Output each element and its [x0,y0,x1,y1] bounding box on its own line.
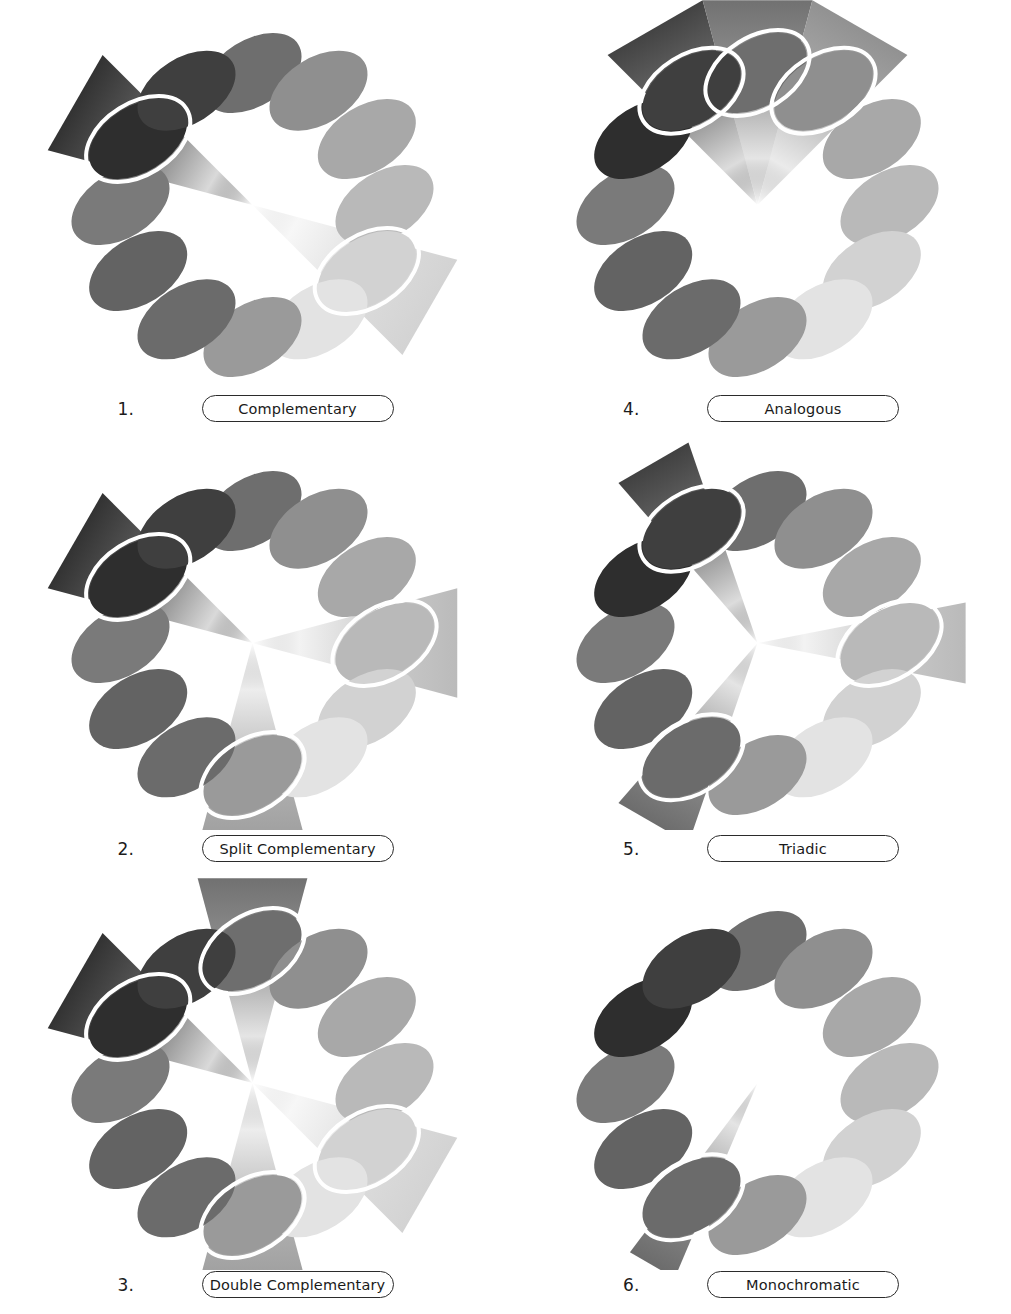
panel-number-monochromatic: 6. [617,1275,707,1295]
panel-caption: 3. Double Complementary [0,1271,505,1298]
color-wheel-analogous [505,0,1011,438]
color-wheel-double-complementary [0,878,505,1314]
panel-caption: 4. Analogous [505,395,1011,422]
color-wheel-svg [0,0,505,392]
scheme-label-text-analogous: Analogous [764,401,841,417]
panel-grid: 1. Complementary 4. Analogous 2. Split C… [0,0,1011,1314]
scheme-panel-complementary: 1. Complementary [0,0,505,438]
color-wheel-svg [506,438,1011,830]
color-wheel-svg [0,438,505,830]
color-wheel-svg [506,878,1011,1270]
panel-number-double-complementary: 3. [112,1275,202,1295]
panel-number-analogous: 4. [617,399,707,419]
scheme-label-pill-triadic[interactable]: Triadic [707,835,899,862]
scheme-label-pill-double-complementary[interactable]: Double Complementary [202,1271,394,1298]
color-wheel-monochromatic [505,878,1011,1314]
panel-caption: 6. Monochromatic [505,1271,1011,1298]
color-wheel-svg [506,0,1011,392]
panel-caption: 1. Complementary [0,395,505,422]
scheme-panel-split-complementary: 2. Split Complementary [0,438,505,878]
panel-number-triadic: 5. [617,839,707,859]
color-wheel-triadic [505,438,1011,878]
scheme-panel-monochromatic: 6. Monochromatic [505,878,1011,1314]
scheme-panel-analogous: 4. Analogous [505,0,1011,438]
color-wheel-svg [0,878,505,1270]
panel-number-complementary: 1. [112,399,202,419]
scheme-label-pill-split-complementary[interactable]: Split Complementary [202,835,394,862]
scheme-label-text-complementary: Complementary [238,401,357,417]
scheme-label-pill-analogous[interactable]: Analogous [707,395,899,422]
color-wheel-split-complementary [0,438,505,878]
panel-caption: 2. Split Complementary [0,835,505,862]
scheme-panel-triadic: 5. Triadic [505,438,1011,878]
panel-caption: 5. Triadic [505,835,1011,862]
scheme-label-text-double-complementary: Double Complementary [210,1277,386,1293]
scheme-label-text-triadic: Triadic [779,841,827,857]
scheme-panel-double-complementary: 3. Double Complementary [0,878,505,1314]
panel-number-split-complementary: 2. [112,839,202,859]
scheme-label-pill-complementary[interactable]: Complementary [202,395,394,422]
scheme-label-text-monochromatic: Monochromatic [746,1277,860,1293]
scheme-label-text-split-complementary: Split Complementary [219,841,375,857]
color-wheel-complementary [0,0,505,438]
scheme-label-pill-monochromatic[interactable]: Monochromatic [707,1271,899,1298]
